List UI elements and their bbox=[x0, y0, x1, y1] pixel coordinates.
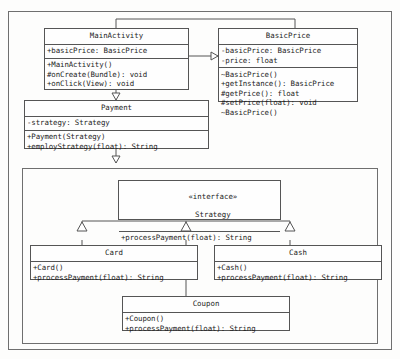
uml-diagram-canvas: MainActivity +basicPrice: BasicPrice +Ma… bbox=[0, 0, 400, 359]
class-name-card: Card bbox=[31, 246, 197, 262]
operation-line: +employStrategy(float): String bbox=[27, 142, 208, 152]
class-box-basicprice[interactable]: BasicPrice -basicPrice: BasicPrice -pric… bbox=[218, 28, 358, 102]
class-name-payment: Payment bbox=[25, 101, 208, 117]
attribute-line: -basicPrice: BasicPrice bbox=[221, 46, 357, 56]
class-name-basicprice: BasicPrice bbox=[219, 29, 357, 45]
stereotype-label: «interface» bbox=[188, 192, 237, 201]
class-box-mainactivity[interactable]: MainActivity +basicPrice: BasicPrice +Ma… bbox=[44, 28, 189, 90]
operation-line: +MainActivity() bbox=[47, 60, 188, 70]
attribute-line: -strategy: Strategy bbox=[27, 118, 208, 128]
class-operations-mainactivity: +MainActivity() #onCreate(Bundle): void … bbox=[45, 59, 188, 91]
operation-line: +processPayment(float): String bbox=[33, 273, 197, 283]
class-operations-coupon: +Coupon() +processPayment(float): String bbox=[123, 313, 289, 336]
operation-line: #setPrice(float): void bbox=[221, 98, 357, 108]
class-operations-payment: +Payment(Strategy) +employStrategy(float… bbox=[25, 131, 208, 154]
class-box-cash[interactable]: Cash +Cash() +processPayment(float): Str… bbox=[214, 245, 382, 280]
class-name-cash: Cash bbox=[215, 246, 381, 262]
class-operations-strategy: +processPayment(float): String bbox=[119, 232, 280, 245]
class-attributes-basicprice: -basicPrice: BasicPrice -price: float bbox=[219, 45, 357, 69]
operation-line: +onClick(View): void bbox=[47, 79, 188, 89]
operation-line: ~BasicPrice() bbox=[221, 70, 357, 80]
class-name-mainactivity: MainActivity bbox=[45, 29, 188, 45]
class-operations-cash: +Cash() +processPayment(float): String bbox=[215, 262, 381, 285]
operation-line: +getInstance(): BasicPrice bbox=[221, 79, 357, 89]
class-attributes-payment: -strategy: Strategy bbox=[25, 117, 208, 131]
operation-line: +Coupon() bbox=[125, 314, 289, 324]
operation-line: +Payment(Strategy) bbox=[27, 132, 208, 142]
class-box-payment[interactable]: Payment -strategy: Strategy +Payment(Str… bbox=[24, 100, 209, 149]
class-operations-card: +Card() +processPayment(float): String bbox=[31, 262, 197, 285]
operation-line: #getPrice(): float bbox=[221, 89, 357, 99]
attribute-line: +basicPrice: BasicPrice bbox=[47, 46, 188, 56]
operation-line: #onCreate(Bundle): void bbox=[47, 70, 188, 80]
operation-line: +Card() bbox=[33, 263, 197, 273]
attribute-line: -price: float bbox=[221, 56, 357, 66]
class-name-strategy: «interface» Strategy bbox=[119, 181, 280, 232]
operation-line: +Cash() bbox=[217, 263, 381, 273]
class-box-coupon[interactable]: Coupon +Coupon() +processPayment(float):… bbox=[122, 296, 290, 331]
operation-line: +processPayment(float): String bbox=[121, 233, 280, 243]
operation-line: ~BasicPrice() bbox=[221, 108, 357, 118]
class-attributes-mainactivity: +basicPrice: BasicPrice bbox=[45, 45, 188, 59]
operation-line: +processPayment(float): String bbox=[125, 324, 289, 334]
class-box-strategy[interactable]: «interface» Strategy +processPayment(flo… bbox=[118, 180, 281, 220]
operation-line: +processPayment(float): String bbox=[217, 273, 381, 283]
class-box-card[interactable]: Card +Card() +processPayment(float): Str… bbox=[30, 245, 198, 280]
interface-name-label: Strategy bbox=[195, 210, 231, 219]
class-operations-basicprice: ~BasicPrice() +getInstance(): BasicPrice… bbox=[219, 68, 357, 119]
class-name-coupon: Coupon bbox=[123, 297, 289, 313]
